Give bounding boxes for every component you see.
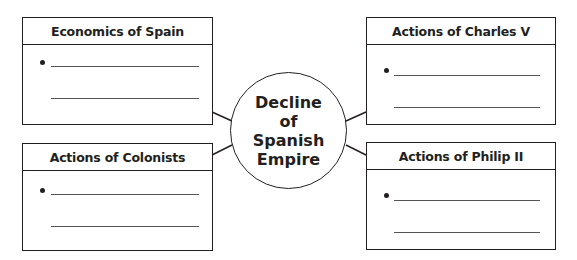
connector-charles bbox=[346, 112, 366, 121]
connector-economics bbox=[212, 112, 232, 121]
bullet-icon bbox=[40, 188, 45, 193]
center-title-line-1: Decline of bbox=[244, 93, 334, 131]
box-title: Actions of Philip II bbox=[367, 143, 555, 170]
answer-line-2[interactable] bbox=[394, 232, 540, 233]
bullet-icon bbox=[384, 68, 389, 73]
connector-philip bbox=[346, 145, 366, 155]
box-title: Economics of Spain bbox=[23, 18, 212, 45]
center-title-line-3: Empire bbox=[244, 150, 334, 169]
answer-line-2[interactable] bbox=[51, 226, 199, 227]
answer-line-1[interactable] bbox=[51, 66, 199, 67]
answer-line-2[interactable] bbox=[51, 98, 199, 99]
answer-line-1[interactable] bbox=[394, 75, 540, 76]
answer-line-2[interactable] bbox=[394, 107, 540, 108]
bullet-icon bbox=[40, 60, 45, 65]
answer-line-1[interactable] bbox=[394, 200, 540, 201]
box-title: Actions of Charles V bbox=[367, 18, 555, 45]
center-title-line-2: Spanish bbox=[244, 131, 334, 150]
box-actions-of-colonists: Actions of Colonists bbox=[22, 143, 213, 251]
box-title: Actions of Colonists bbox=[23, 144, 212, 171]
box-actions-of-philip-ii: Actions of Philip II bbox=[366, 142, 556, 250]
box-actions-of-charles-v: Actions of Charles V bbox=[366, 17, 556, 125]
center-title: Decline of Spanish Empire bbox=[244, 93, 334, 169]
center-topic-circle: Decline of Spanish Empire bbox=[230, 72, 347, 189]
answer-line-1[interactable] bbox=[51, 194, 199, 195]
bullet-icon bbox=[384, 193, 389, 198]
connector-colonists bbox=[212, 145, 232, 155]
box-economics-of-spain: Economics of Spain bbox=[22, 17, 213, 125]
